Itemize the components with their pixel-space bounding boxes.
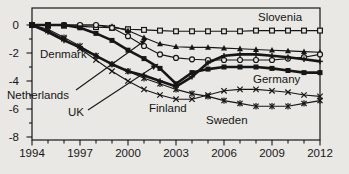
country-deficit-line-chart: 19941997200020032006200920120-2-4-6-8Slo… (0, 0, 349, 174)
x-tick-label: 2006 (211, 147, 237, 159)
x-tick-label: 2003 (163, 147, 189, 159)
series-label-text-finland: Finland (149, 102, 187, 114)
y-tick-label: -4 (9, 75, 20, 87)
series-label-slovenia: Slovenia (258, 11, 303, 23)
series-label-text-slovenia: Slovenia (258, 11, 303, 23)
series-label-text-uk: UK (68, 106, 84, 118)
x-tick-label: 1994 (19, 147, 45, 159)
line-chart-figure: 19941997200020032006200920120-2-4-6-8Slo… (0, 0, 349, 174)
x-tick-label: 2012 (307, 147, 333, 159)
x-tick-label: 2000 (115, 147, 141, 159)
series-slovenia (30, 23, 323, 34)
series-label-text-netherlands: Netherlands (7, 89, 69, 101)
series-label-finland: Finland (149, 102, 187, 114)
series-label-text-germany: Germany (253, 73, 301, 85)
x-axis: 1994199720002003200620092012 (19, 140, 333, 159)
y-tick-label: -2 (9, 47, 19, 59)
series-sweden (29, 22, 322, 110)
x-tick-label: 2009 (259, 147, 285, 159)
series-label-text-denmark: Denmark (40, 48, 87, 60)
x-tick-label: 1997 (67, 147, 93, 159)
series-label-sweden: Sweden (206, 114, 248, 126)
y-axis: 0-2-4-6-8 (9, 19, 32, 143)
series-label-germany: Germany (253, 73, 301, 85)
series-line-sweden (32, 25, 320, 106)
y-tick-label: -6 (9, 103, 19, 115)
series-label-text-sweden: Sweden (206, 114, 248, 126)
series-label-denmark: Denmark (40, 48, 87, 60)
y-tick-label: 0 (13, 19, 19, 31)
y-tick-label: -8 (9, 131, 19, 143)
